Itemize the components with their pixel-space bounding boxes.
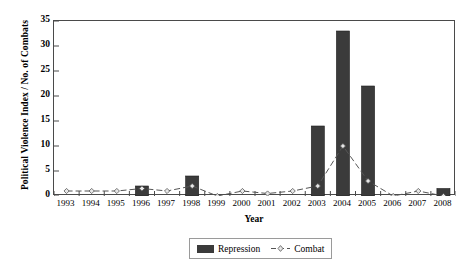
bar-repression [336, 31, 349, 196]
combat-marker [265, 191, 270, 196]
legend-entry-combat: Combat [271, 244, 324, 254]
plot-svg [54, 21, 456, 196]
x-axis-tick-labels: 1993199419951996199719981999200020012002… [53, 199, 455, 213]
legend-line-swatch-icon [271, 244, 290, 253]
combat-marker [240, 188, 245, 193]
combat-marker [290, 188, 295, 193]
legend-entry-repression: Repression [197, 244, 260, 254]
combat-marker [64, 188, 69, 193]
y-tick-label: 35 [32, 15, 50, 25]
combat-marker [416, 188, 421, 193]
combat-marker [114, 188, 119, 193]
y-axis-tick-labels: 05101520253035 [26, 20, 50, 195]
combat-marker [89, 188, 94, 193]
y-tick-label: 30 [32, 40, 50, 50]
x-tick-label: 2008 [427, 199, 457, 209]
plot-area [53, 20, 455, 195]
combat-marker [391, 193, 396, 196]
y-tick-label: 10 [32, 140, 50, 150]
legend-label-combat: Combat [294, 244, 324, 254]
y-tick-label: 20 [32, 90, 50, 100]
combat-marker [215, 193, 220, 196]
y-tick-label: 5 [32, 165, 50, 175]
y-tick-label: 25 [32, 65, 50, 75]
y-tick-label: 15 [32, 115, 50, 125]
y-tick-label: 0 [32, 190, 50, 200]
combat-marker [164, 188, 169, 193]
x-axis-title: Year [53, 214, 455, 224]
legend-label-repression: Repression [218, 244, 260, 254]
legend-bar-swatch-icon [197, 245, 214, 253]
chart-container: Political Violence Index / No. of Combat… [0, 0, 464, 267]
combat-line [67, 146, 444, 196]
chart-legend: Repression Combat [189, 238, 332, 259]
